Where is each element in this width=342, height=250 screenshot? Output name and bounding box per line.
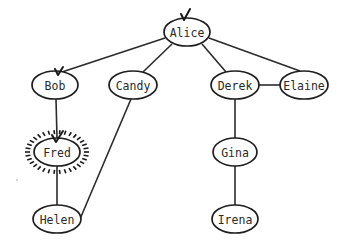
node-derek[interactable]: Derek (211, 71, 259, 99)
node-irena-label: Irena (218, 213, 253, 227)
halo-ray (48, 131, 49, 135)
node-gina[interactable]: Gina (213, 138, 257, 166)
halo-ray (60, 130, 61, 134)
halo-ray (48, 169, 49, 173)
node-bob-label: Bob (45, 79, 66, 93)
edge-alice-derek (202, 44, 226, 72)
halo-ray (27, 144, 32, 145)
stray-dot (16, 179, 18, 181)
halo-ray (64, 169, 65, 173)
node-fred-label: Fred (43, 146, 71, 160)
node-elaine-label: Elaine (283, 79, 325, 93)
halo-ray (26, 148, 31, 149)
halo-ray (69, 132, 71, 136)
halo-ray (54, 130, 55, 134)
node-bob[interactable]: Bob (32, 71, 78, 99)
halo-ray (77, 164, 81, 167)
edge-alice-elaine (209, 38, 300, 71)
edge-alice-candy (143, 44, 172, 72)
halo-ray (80, 162, 84, 164)
nodes-layer: Alice Bob Candy Derek Elaine Fred (32, 18, 328, 233)
halo-ray (26, 155, 31, 156)
node-gina-label: Gina (221, 146, 249, 160)
halo-ray (64, 131, 65, 135)
edge-alice-bob (62, 38, 165, 72)
halo-ray (82, 144, 87, 145)
node-irena[interactable]: Irena (212, 205, 258, 233)
node-alice-label: Alice (170, 26, 205, 40)
node-helen-label: Helen (40, 213, 75, 227)
halo-ray (77, 137, 81, 140)
edge-candy-helen (80, 99, 131, 219)
halo-ray (84, 155, 89, 156)
halo-ray (84, 148, 89, 149)
node-elaine[interactable]: Elaine (280, 71, 328, 99)
node-candy[interactable]: Candy (109, 71, 157, 99)
halo-ray (30, 140, 34, 142)
halo-ray (60, 170, 61, 174)
halo-ray (38, 166, 41, 169)
halo-ray (33, 164, 37, 167)
halo-ray (80, 140, 84, 142)
halo-ray (43, 132, 45, 136)
halo-ray (54, 170, 55, 174)
node-alice[interactable]: Alice (164, 18, 210, 46)
halo-ray (30, 162, 34, 164)
edge-bob-fred (56, 99, 57, 138)
halo-ray (38, 134, 41, 137)
graph-canvas: Alice Bob Candy Derek Elaine Fred (0, 0, 342, 250)
node-helen[interactable]: Helen (33, 205, 81, 233)
graph-svg: Alice Bob Candy Derek Elaine Fred (0, 0, 342, 250)
halo-ray (33, 137, 37, 140)
halo-ray (73, 134, 76, 137)
node-derek-label: Derek (218, 79, 253, 93)
halo-ray (69, 168, 71, 172)
halo-ray (73, 166, 76, 169)
node-candy-label: Candy (116, 79, 151, 93)
edges-layer (56, 38, 300, 219)
halo-ray (27, 159, 32, 160)
halo-ray (82, 159, 87, 160)
halo-ray (43, 168, 45, 172)
